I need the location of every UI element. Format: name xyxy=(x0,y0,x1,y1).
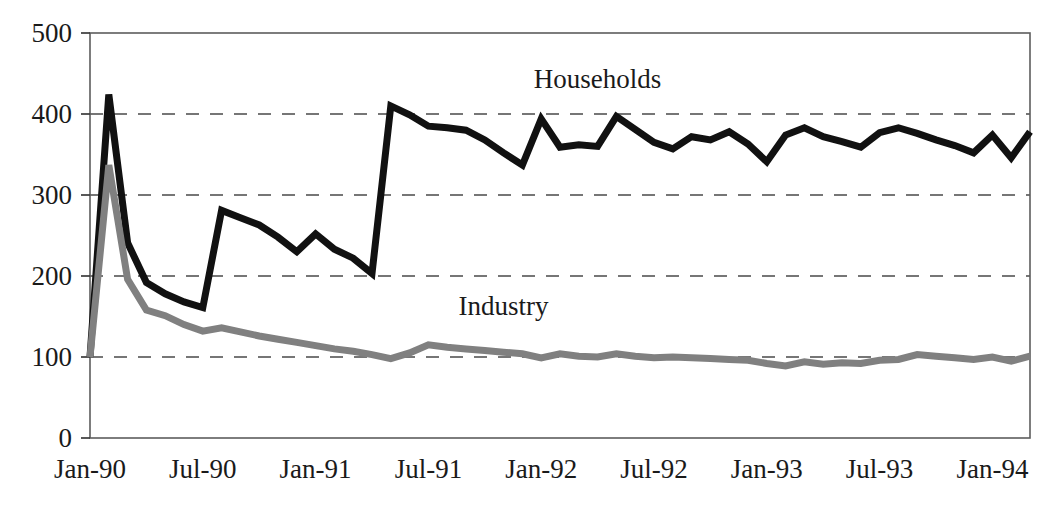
data-series xyxy=(90,95,1030,366)
line-chart: 0100200300400500 Jan-90Jul-90Jan-91Jul-9… xyxy=(0,0,1064,516)
x-tick-label: Jul-93 xyxy=(846,454,914,484)
x-tick-label: Jul-90 xyxy=(169,454,237,484)
y-tick-label: 100 xyxy=(32,342,73,372)
y-tick-label: 500 xyxy=(32,18,73,48)
y-tick-label: 0 xyxy=(59,423,73,453)
y-axis-ticks xyxy=(81,33,90,438)
y-tick-label: 300 xyxy=(32,180,73,210)
x-tick-label: Jul-91 xyxy=(395,454,463,484)
series-annotations: HouseholdsIndustry xyxy=(459,64,662,321)
x-axis-labels: Jan-90Jul-90Jan-91Jul-91Jan-92Jul-92Jan-… xyxy=(54,454,1029,484)
y-tick-label: 200 xyxy=(32,261,73,291)
y-tick-label: 400 xyxy=(32,99,73,129)
x-tick-label: Jan-91 xyxy=(280,454,352,484)
series-label-households: Households xyxy=(534,64,662,94)
x-tick-label: Jan-92 xyxy=(505,454,577,484)
series-label-industry: Industry xyxy=(459,291,549,321)
x-tick-label: Jan-93 xyxy=(731,454,803,484)
x-tick-label: Jan-90 xyxy=(54,454,126,484)
x-tick-label: Jul-92 xyxy=(620,454,688,484)
y-axis-labels: 0100200300400500 xyxy=(32,18,73,453)
x-tick-label: Jan-94 xyxy=(956,454,1028,484)
series-line-households xyxy=(90,95,1030,357)
chart-figure: 0100200300400500 Jan-90Jul-90Jan-91Jul-9… xyxy=(0,0,1064,516)
